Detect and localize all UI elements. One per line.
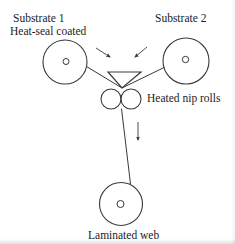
web-line-substrate2 (122, 68, 164, 89)
arrow-substrate2-direction-icon (135, 47, 147, 57)
substrate1-roll (43, 40, 87, 84)
nip-roll-right (121, 89, 141, 109)
substrate2-roll (163, 38, 209, 84)
laminated-web-roll-hub (117, 201, 124, 208)
laminated-web-roll (100, 183, 143, 226)
arrow-substrate1-direction-icon (96, 48, 110, 57)
web-line-substrate1 (87, 67, 123, 89)
scan-shadow-right (231, 0, 235, 244)
label-substrate1-line2: Heat-seal coated (10, 25, 87, 37)
diagram-canvas: Substrate 1 Heat-seal coated Substrate 2… (0, 0, 235, 244)
label-substrate1-line1: Substrate 1 (13, 12, 65, 24)
scan-shadow-bottom (0, 239, 235, 244)
label-heated-nip-rolls: Heated nip rolls (147, 92, 221, 105)
lamination-process-diagram: Substrate 1 Heat-seal coated Substrate 2… (0, 0, 235, 244)
nip-roll-left (101, 89, 121, 109)
substrate1-roll-hub (63, 59, 69, 65)
web-line-laminated (122, 109, 131, 185)
lamination-wedge (108, 72, 141, 88)
label-substrate2: Substrate 2 (155, 12, 207, 24)
substrate2-roll-hub (182, 56, 188, 62)
